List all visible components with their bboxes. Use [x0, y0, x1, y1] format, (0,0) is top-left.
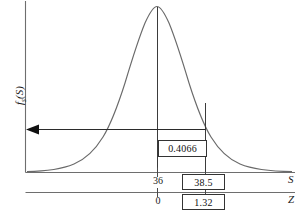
y-axis-label-main: f: [13, 102, 25, 105]
figure-canvas: fs(S) S Z 36 0 0.4066 38.5 1.32: [0, 0, 307, 215]
s-axis-name: S: [288, 174, 294, 185]
z-axis-tick-label-0: 0: [152, 196, 164, 206]
s-value-box: 38.5: [182, 174, 225, 190]
z-axis-name: Z: [288, 194, 294, 205]
y-axis-label-subscript: s: [19, 99, 28, 102]
y-axis-label: fs(S): [14, 86, 28, 105]
z-value-box: 1.32: [182, 194, 225, 210]
y-axis-label-argument: (S): [13, 86, 25, 99]
probability-arrow-head: [26, 125, 39, 135]
probability-box: 0.4066: [158, 140, 207, 157]
s-axis-tick-label-36: 36: [150, 176, 166, 186]
